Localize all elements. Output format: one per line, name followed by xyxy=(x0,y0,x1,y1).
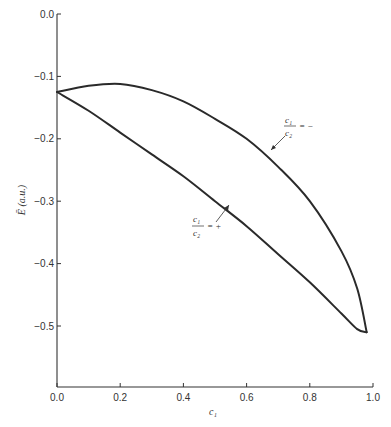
y-tick-label: 0.0 xyxy=(40,9,54,20)
x-axis-title: c₁ xyxy=(209,406,217,417)
y-tick-label: −0.3 xyxy=(34,196,54,207)
curve-plus xyxy=(57,92,367,332)
y-tick-label: −0.5 xyxy=(34,321,54,332)
x-tick-label: 0.0 xyxy=(50,392,64,403)
annotation-minus-denominator: c₂ xyxy=(285,128,292,138)
annotation-plus-sign: = + xyxy=(207,221,221,231)
y-tick-label: −0.1 xyxy=(34,71,54,82)
x-tick-label: 0.6 xyxy=(240,392,254,403)
annotation-minus: c₁ c₂ = − xyxy=(271,115,313,150)
x-tick-label: 0.4 xyxy=(176,392,190,403)
x-tick-label: 0.8 xyxy=(303,392,317,403)
annotation-minus-numerator: c₁ xyxy=(285,115,292,125)
annotation-plus-numerator: c₁ xyxy=(193,214,200,224)
y-axis-title: Ē (a.u.) xyxy=(16,184,28,216)
y-tick-label: −0.2 xyxy=(34,133,54,144)
axes: 0.0−0.1−0.2−0.3−0.4−0.50.00.20.40.60.81.… xyxy=(34,9,380,404)
x-tick-label: 1.0 xyxy=(366,392,380,403)
annotation-minus-sign: = − xyxy=(299,121,313,131)
annotation-plus-denominator: c₂ xyxy=(193,228,200,238)
y-tick-label: −0.4 xyxy=(34,258,54,269)
curves xyxy=(57,84,367,333)
energy-chart: 0.0−0.1−0.2−0.3−0.4−0.50.00.20.40.60.81.… xyxy=(0,0,391,427)
x-tick-label: 0.2 xyxy=(113,392,127,403)
annotation-plus: c₁ c₂ = + xyxy=(192,205,229,238)
